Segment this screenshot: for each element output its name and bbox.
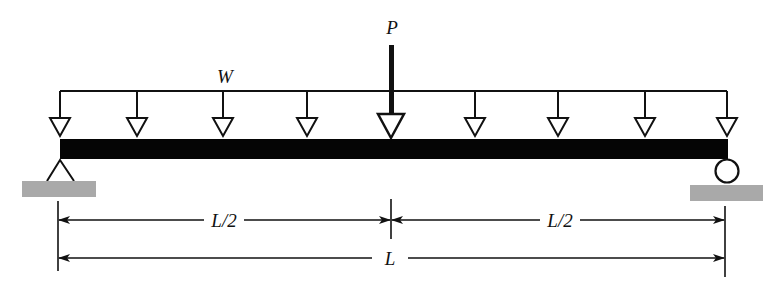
beam-diagram: W P L/2 L/2 L	[0, 0, 782, 296]
distributed-load-label: W	[217, 66, 235, 87]
point-load-arrowhead	[378, 114, 404, 138]
pin-support-legs	[47, 160, 74, 181]
load-arrow	[635, 91, 655, 136]
point-load-shaft	[389, 45, 394, 115]
load-arrow	[127, 91, 147, 136]
load-arrow	[548, 91, 568, 136]
left-ground-block	[22, 181, 96, 197]
beam	[60, 139, 728, 159]
load-arrow	[213, 91, 233, 136]
total-length-label: L	[384, 248, 396, 269]
roller-icon	[716, 160, 739, 183]
load-arrow	[297, 91, 317, 136]
right-half-length-label: L/2	[546, 210, 573, 231]
left-half-length-label: L/2	[210, 210, 237, 231]
pin-support	[22, 160, 96, 197]
load-arrow	[717, 91, 737, 136]
load-arrow	[465, 91, 485, 136]
right-ground-block	[690, 185, 763, 201]
load-arrow	[50, 91, 70, 136]
roller-support	[690, 160, 763, 202]
point-load-label: P	[385, 17, 398, 38]
